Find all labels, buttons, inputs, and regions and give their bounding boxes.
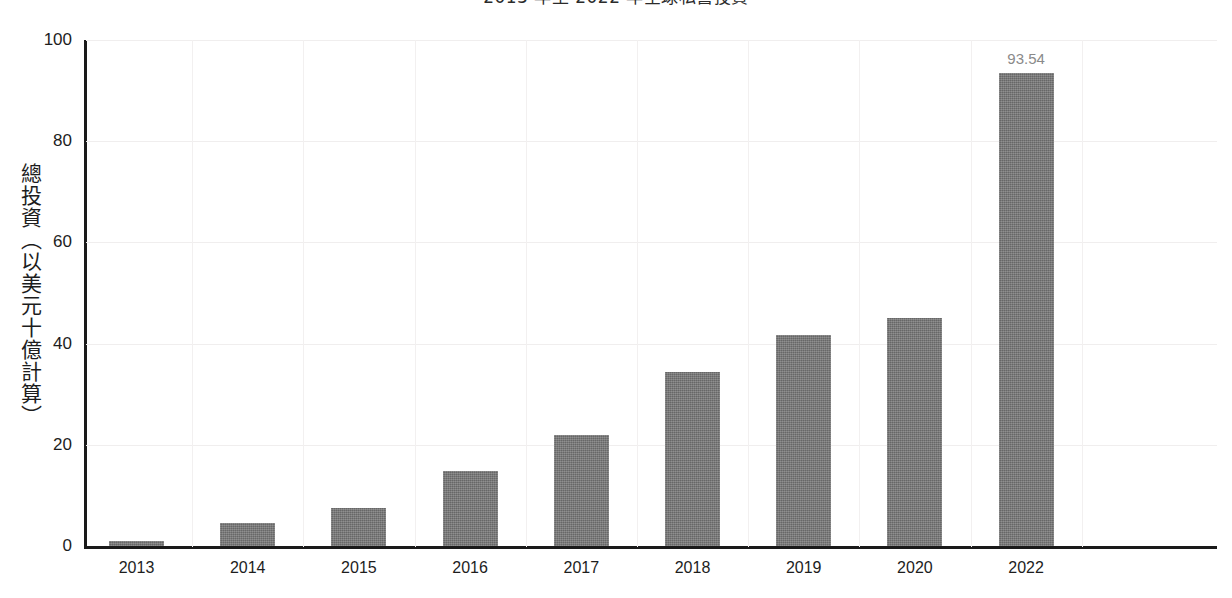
bar-2022[interactable] bbox=[999, 73, 1054, 546]
chart-title-clip: 2013 年至 2022 年全球私營投資 bbox=[0, 0, 1232, 9]
bar-2016[interactable] bbox=[443, 471, 498, 546]
bar-2015[interactable] bbox=[331, 508, 386, 546]
x-axis-line bbox=[84, 546, 1217, 549]
gridline-vertical bbox=[971, 40, 972, 547]
y-axis-tick-label: 0 bbox=[26, 537, 72, 554]
bar-2013[interactable] bbox=[109, 541, 164, 546]
y-axis-tick-label: 20 bbox=[26, 436, 72, 453]
x-axis-tick-label-2020: 2020 bbox=[860, 559, 970, 577]
bar-2019[interactable] bbox=[776, 335, 831, 547]
y-axis-tick-label: 80 bbox=[26, 132, 72, 149]
x-axis-tick-label-2014: 2014 bbox=[193, 559, 303, 577]
y-axis-tick-label: 100 bbox=[26, 31, 72, 48]
gridline-vertical bbox=[748, 40, 749, 547]
bar-2014[interactable] bbox=[220, 523, 275, 546]
chart-canvas: 2013 年至 2022 年全球私營投資 總投資（以美元十億計算） 020406… bbox=[0, 0, 1232, 598]
gridline-vertical bbox=[526, 40, 527, 547]
x-axis-tick-label-2022: 2022 bbox=[971, 559, 1081, 577]
x-axis-tick-label-2019: 2019 bbox=[749, 559, 859, 577]
x-axis-tick-label-2015: 2015 bbox=[304, 559, 414, 577]
y-axis-title: 總投資（以美元十億計算） bbox=[8, 163, 42, 427]
gridline-vertical bbox=[415, 40, 416, 547]
x-axis-tick-label-2016: 2016 bbox=[415, 559, 525, 577]
y-axis-tick-label: 40 bbox=[26, 335, 72, 352]
x-axis-tick-label-2013: 2013 bbox=[82, 559, 192, 577]
gridline-vertical bbox=[192, 40, 193, 547]
gridline-vertical bbox=[1082, 40, 1083, 547]
y-axis-line bbox=[84, 40, 87, 548]
y-axis-tick-label: 60 bbox=[26, 233, 72, 250]
x-axis-tick-label-2017: 2017 bbox=[526, 559, 636, 577]
plot-area: 020406080100 93.54 201320142015201620172… bbox=[84, 40, 1217, 548]
bar-2017[interactable] bbox=[554, 435, 609, 546]
gridline-vertical bbox=[859, 40, 860, 547]
gridline-horizontal bbox=[86, 40, 1217, 41]
bar-2020[interactable] bbox=[887, 318, 942, 546]
x-axis-tick-label-2018: 2018 bbox=[638, 559, 748, 577]
chart-title: 2013 年至 2022 年全球私營投資 bbox=[0, 0, 1232, 7]
bar-2018[interactable] bbox=[665, 372, 720, 546]
gridline-vertical bbox=[303, 40, 304, 547]
bar-value-label-2022: 93.54 bbox=[966, 51, 1086, 67]
gridline-vertical bbox=[637, 40, 638, 547]
